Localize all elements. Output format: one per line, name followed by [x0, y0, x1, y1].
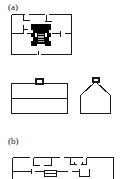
panel-a-floor-plan: [12, 15, 72, 55]
plan-a-central-core: [31, 24, 51, 46]
plan-b-interior-walls: [13, 158, 90, 177]
panel-b-floor-plan: [13, 158, 114, 179]
drawing-layer: [0, 0, 124, 179]
panel-a-elevation-right: [81, 78, 111, 114]
plan-b-outer-wall: [13, 158, 114, 179]
panel-a-elevation-left: [12, 79, 68, 114]
figure-root: (a) (b): [0, 0, 124, 179]
